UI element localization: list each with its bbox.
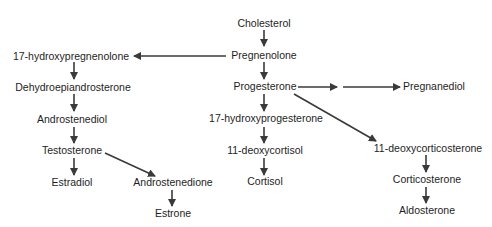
node-testosterone: Testosterone <box>42 145 102 156</box>
node-pregnenolone: Pregnenolone <box>231 50 296 61</box>
node-estradiol: Estradiol <box>52 177 93 188</box>
node-pregnanediol: Pregnanediol <box>403 81 465 92</box>
node-17-hydroxypregnenolone: 17-hydroxypregnenolone <box>13 51 129 62</box>
node-cholesterol: Cholesterol <box>237 18 290 29</box>
node-estrone: Estrone <box>155 208 191 219</box>
node-corticosterone: Corticosterone <box>393 174 461 185</box>
arrow-testosterone-androstenedione <box>105 153 155 176</box>
node-11-deoxycortisol: 11-deoxycortisol <box>227 145 303 156</box>
node-11-deoxycorticosterone: 11-deoxycorticosterone <box>374 143 482 154</box>
node-17-hydroxyprogesterone: 17-hydroxyprogesterone <box>209 113 323 124</box>
node-progesterone: Progesterone <box>233 81 296 92</box>
node-cortisol: Cortisol <box>247 176 283 187</box>
node-dehydroepiandrosterone: Dehydroepiandrosterone <box>15 82 131 93</box>
node-androstenediol: Androstenediol <box>37 114 107 125</box>
node-androstenedione: Androstenedione <box>133 177 212 188</box>
node-aldosterone: Aldosterone <box>399 205 455 216</box>
steroid-pathway-diagram: Cholesterol Pregnenolone 17-hydroxypregn… <box>0 0 492 227</box>
